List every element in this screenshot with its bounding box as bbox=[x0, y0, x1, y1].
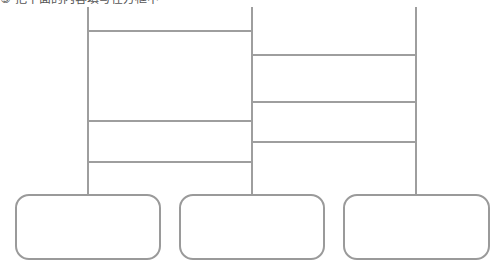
answer-box-3-label bbox=[345, 196, 488, 258]
rung-left-middle-3 bbox=[88, 161, 252, 163]
answer-box-1-label bbox=[17, 196, 159, 258]
rung-left-middle-1 bbox=[88, 30, 252, 32]
answer-box-1[interactable] bbox=[15, 194, 161, 260]
rung-left-middle-2 bbox=[88, 120, 252, 122]
answer-box-2[interactable] bbox=[179, 194, 325, 260]
rung-middle-right-2 bbox=[252, 101, 416, 103]
answer-box-2-label bbox=[181, 196, 323, 258]
answer-box-3[interactable] bbox=[343, 194, 490, 260]
rung-middle-right-1 bbox=[252, 54, 416, 56]
rung-middle-right-3 bbox=[252, 141, 416, 143]
clipped-caption-text: ③ 把下面的内容填写在方框中 bbox=[0, 0, 240, 7]
vertical-line-left bbox=[87, 7, 89, 195]
